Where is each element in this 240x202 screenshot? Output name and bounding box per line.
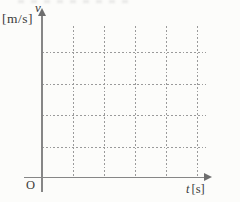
- horizontal-gridline: [42, 147, 206, 148]
- vt-graph-figure: v [m/s] O t[s]: [0, 0, 240, 202]
- horizontal-gridline: [42, 52, 206, 53]
- y-axis-unit-label: [m/s]: [2, 12, 33, 26]
- vertical-gridline: [73, 26, 74, 177]
- vertical-gridline: [104, 26, 105, 177]
- x-axis-arrow-icon: [204, 173, 212, 181]
- x-axis-label: t[s]: [186, 183, 205, 196]
- vertical-gridline: [135, 26, 136, 177]
- horizontal-gridline: [42, 84, 206, 85]
- x-axis-line: [24, 177, 207, 179]
- origin-label: O: [26, 179, 35, 192]
- vertical-gridline: [197, 26, 198, 177]
- vertical-gridline: [166, 26, 167, 177]
- y-axis-variable-label: v: [35, 1, 41, 14]
- x-axis-unit-label: [s]: [191, 182, 204, 196]
- horizontal-gridline: [42, 115, 206, 116]
- y-axis-line: [41, 11, 43, 192]
